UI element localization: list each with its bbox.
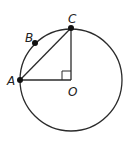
label-c: C xyxy=(68,12,77,26)
point-a xyxy=(17,77,23,83)
label-o: O xyxy=(68,85,77,99)
label-b: B xyxy=(25,31,33,45)
right-angle-marker xyxy=(62,71,71,80)
label-a: A xyxy=(6,74,15,88)
circle-diagram: A B C O xyxy=(0,0,133,146)
